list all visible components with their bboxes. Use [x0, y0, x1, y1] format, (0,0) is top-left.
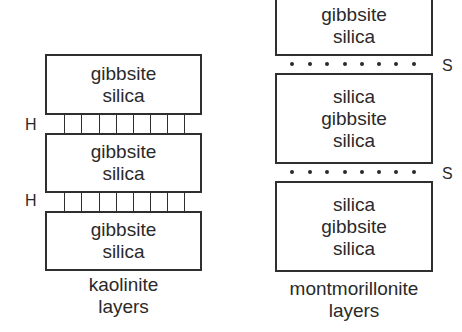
interlayer-label: S	[442, 165, 453, 183]
montmorillonite-caption: montmorillonite layers	[264, 278, 444, 322]
kaolinite-layer-3: gibbsite silica	[45, 211, 202, 271]
layer-label: gibbsite	[91, 63, 157, 85]
caption-line: montmorillonite	[264, 278, 444, 300]
montmorillonite-layer-3: silica gibbsite silica	[275, 181, 433, 272]
kaolinite-layer-1: gibbsite silica	[45, 54, 202, 115]
layer-label: silica	[102, 163, 144, 185]
layer-label: silica	[333, 130, 375, 152]
montmorillonite-layer-2: silica gibbsite silica	[275, 73, 433, 164]
layer-label: gibbsite	[321, 4, 387, 26]
layer-label: gibbsite	[321, 108, 387, 130]
hydrogen-bond-rungs	[64, 114, 186, 134]
hydrogen-bond-label: H	[25, 192, 37, 210]
caption-line: kaolinite	[45, 274, 202, 296]
layer-label: silica	[333, 86, 375, 108]
layer-label: silica	[333, 238, 375, 260]
montmorillonite-layer-1: gibbsite silica	[275, 0, 433, 56]
layer-label: silica	[102, 241, 144, 263]
layer-label: gibbsite	[91, 141, 157, 163]
hydrogen-bond-label: H	[25, 116, 37, 134]
interlayer-dots	[290, 169, 420, 175]
caption-line: layers	[45, 296, 202, 318]
interlayer-dots	[290, 61, 420, 67]
layer-label: gibbsite	[321, 216, 387, 238]
hydrogen-bond-rungs	[64, 192, 186, 212]
layer-label: silica	[102, 85, 144, 107]
layer-label: silica	[333, 194, 375, 216]
layer-label: gibbsite	[91, 219, 157, 241]
caption-line: layers	[264, 300, 444, 322]
layer-label: silica	[333, 26, 375, 48]
kaolinite-caption: kaolinite layers	[45, 274, 202, 318]
interlayer-label: S	[442, 57, 453, 75]
kaolinite-layer-2: gibbsite silica	[45, 133, 202, 193]
